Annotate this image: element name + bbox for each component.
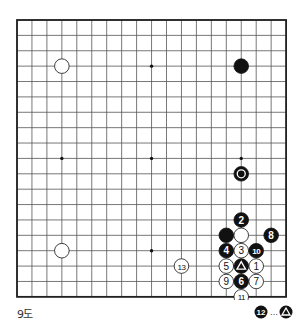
white-stone — [55, 243, 70, 258]
svg-text:1: 1 — [253, 261, 259, 272]
svg-text:12: 12 — [257, 308, 266, 317]
footnote-triangle-stone — [280, 306, 293, 319]
black-stone-6: 6 — [234, 274, 249, 289]
white-stone-9: 9 — [219, 274, 234, 289]
svg-text:7: 7 — [253, 276, 259, 287]
black-stone-8: 8 — [264, 228, 279, 243]
black-stone — [234, 259, 249, 274]
black-stone — [234, 59, 249, 74]
svg-text:8: 8 — [268, 230, 274, 241]
svg-text:3: 3 — [238, 245, 244, 256]
white-stone — [55, 59, 70, 74]
black-stone-10: 10 — [249, 243, 264, 258]
white-stone-11: 11 — [234, 290, 249, 300]
footnote-move-stone: 12 — [255, 306, 268, 319]
svg-text:6: 6 — [238, 276, 244, 287]
star-point — [60, 157, 63, 160]
svg-text:4: 4 — [224, 245, 230, 256]
white-stone-1: 1 — [249, 259, 264, 274]
white-stone-13: 13 — [174, 259, 189, 274]
star-point — [240, 157, 243, 160]
svg-text:2: 2 — [238, 215, 244, 226]
white-stone-3: 3 — [234, 243, 249, 258]
black-stone — [219, 228, 234, 243]
black-stone — [234, 167, 249, 182]
go-board: 284310135196711 — [0, 0, 303, 300]
svg-text:11: 11 — [238, 293, 246, 300]
svg-text:9: 9 — [224, 276, 230, 287]
diagram-caption: 9도 — [17, 305, 33, 321]
white-stone-7: 7 — [249, 274, 264, 289]
black-stone-4: 4 — [219, 243, 234, 258]
footnote-12-at-triangle: 12 … — [254, 304, 294, 320]
white-stone — [234, 228, 249, 243]
black-stone-2: 2 — [234, 213, 249, 228]
footnote-separator: … — [270, 308, 278, 317]
svg-text:5: 5 — [224, 261, 230, 272]
star-point — [150, 64, 153, 67]
star-point — [150, 157, 153, 160]
go-board-svg: 284310135196711 — [0, 0, 303, 300]
svg-text:13: 13 — [178, 263, 187, 272]
star-point — [150, 249, 153, 252]
white-stone-5: 5 — [219, 259, 234, 274]
svg-text:10: 10 — [252, 247, 261, 256]
